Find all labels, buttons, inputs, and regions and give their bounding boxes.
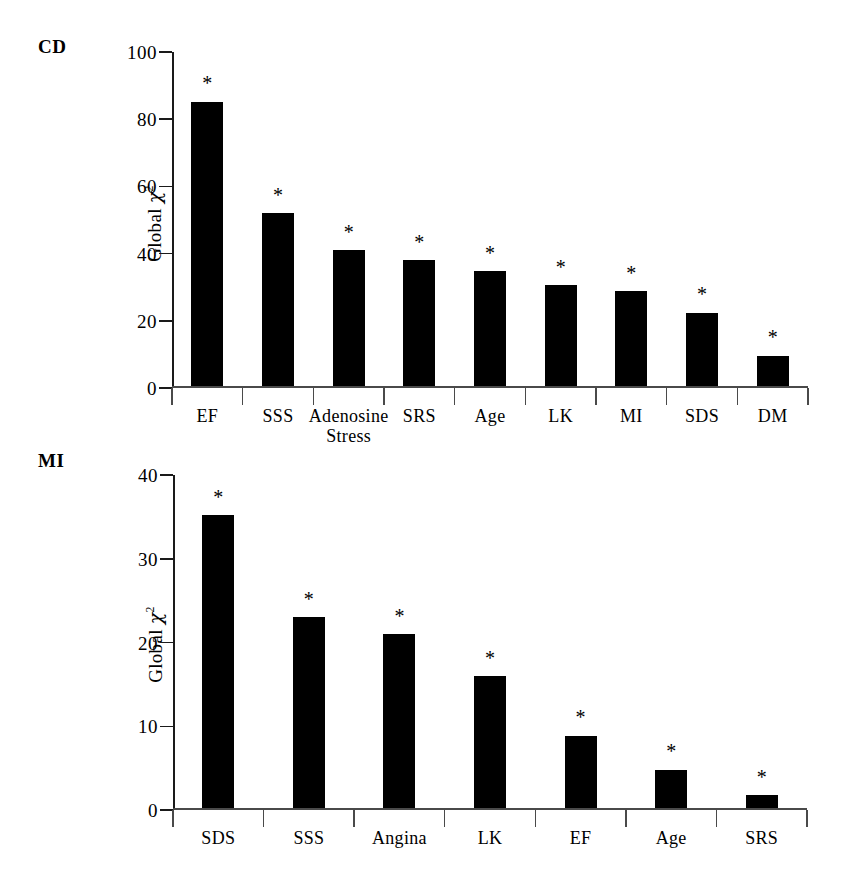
x-axis-category-label: SDS xyxy=(685,406,719,426)
x-axis-tick xyxy=(242,388,244,405)
panel-label-cd: CD xyxy=(38,36,66,58)
bar xyxy=(545,285,577,386)
bar xyxy=(655,770,687,809)
x-axis-tick xyxy=(383,388,385,405)
y-axis-line-cd xyxy=(172,52,174,388)
y-axis-tick xyxy=(160,642,173,644)
x-axis-category-label: EF xyxy=(197,406,219,426)
panel-label-mi: MI xyxy=(38,450,64,472)
y-axis-tick-label: 30 xyxy=(138,549,158,568)
significance-marker: * xyxy=(485,648,495,668)
x-axis-tick xyxy=(625,810,627,827)
x-axis-tick xyxy=(737,388,739,405)
x-axis-category-label: EF xyxy=(570,828,592,848)
bar xyxy=(746,795,778,808)
bar xyxy=(293,617,325,808)
x-axis-category-label: SDS xyxy=(201,828,235,848)
y-axis-tick xyxy=(159,51,172,53)
chi-symbol: χ xyxy=(144,612,166,624)
y-axis-tick-label: 0 xyxy=(147,379,157,398)
y-axis-line-mi xyxy=(173,475,175,810)
significance-marker: * xyxy=(485,243,495,263)
y-axis-tick xyxy=(160,726,173,728)
x-axis-tick xyxy=(353,810,355,827)
bar xyxy=(403,260,435,386)
x-axis-tick xyxy=(595,388,597,405)
x-axis-tick xyxy=(666,388,668,405)
bar xyxy=(262,213,294,386)
x-axis-category-label: DM xyxy=(758,406,788,426)
x-axis-category-label: Age xyxy=(656,828,687,848)
x-axis-category-label: SRS xyxy=(745,828,778,848)
significance-marker: * xyxy=(768,327,778,347)
y-axis-tick-label: 60 xyxy=(137,177,157,196)
bar xyxy=(191,102,223,387)
bar xyxy=(615,291,647,386)
x-axis-category-label: SSS xyxy=(293,828,324,848)
significance-marker: * xyxy=(626,263,636,283)
x-axis-tick xyxy=(525,388,527,405)
x-axis-category-label: SSS xyxy=(263,406,294,426)
x-axis-tick xyxy=(806,810,808,827)
y-axis-tick-label: 40 xyxy=(137,244,157,263)
y-axis-tick xyxy=(160,474,173,476)
significance-marker: * xyxy=(202,73,212,93)
bar xyxy=(686,313,718,387)
x-axis-tick xyxy=(313,388,315,405)
x-axis-tick xyxy=(454,388,456,405)
y-axis-tick xyxy=(159,253,172,255)
y-axis-tick xyxy=(159,320,172,322)
significance-marker: * xyxy=(304,589,314,609)
y-axis-tick-label: 0 xyxy=(148,801,158,820)
y-axis-tick-label: 80 xyxy=(137,110,157,129)
x-axis-tick xyxy=(172,810,174,827)
panel-mi: MI Global χ2 010203040 SDSSSSAnginaLKEFA… xyxy=(0,440,851,882)
y-axis-tick-label: 100 xyxy=(127,43,157,62)
x-axis-tick xyxy=(444,810,446,827)
plot-area-cd: Global χ2 020406080100 EFSSSAdenosine St… xyxy=(172,52,808,388)
x-axis-tick xyxy=(263,810,265,827)
x-axis-category-label: Age xyxy=(475,406,506,426)
y-axis-tick-label: 20 xyxy=(137,311,157,330)
x-axis-category-label: Angina xyxy=(372,828,427,848)
x-axis-category-label: MI xyxy=(620,406,643,426)
x-axis-category-label: LK xyxy=(548,406,573,426)
bar xyxy=(202,515,234,808)
y-axis-tick-label: 10 xyxy=(138,717,158,736)
bar xyxy=(333,250,365,386)
plot-area-mi: Global χ2 010203040 SDSSSSAnginaLKEFAgeS… xyxy=(173,475,807,810)
significance-marker: * xyxy=(576,707,586,727)
y-axis-tick xyxy=(160,558,173,560)
x-axis-tick xyxy=(807,388,809,405)
x-axis-tick xyxy=(535,810,537,827)
bar xyxy=(565,736,597,809)
y-axis-title-cd: Global χ2 xyxy=(143,154,166,294)
bar xyxy=(383,634,415,808)
significance-marker: * xyxy=(666,741,676,761)
y-axis-tick-label: 40 xyxy=(138,466,158,485)
significance-marker: * xyxy=(414,232,424,252)
x-axis-category-label: LK xyxy=(478,828,503,848)
x-axis-tick xyxy=(171,388,173,405)
significance-marker: * xyxy=(394,606,404,626)
y-axis-tick xyxy=(159,387,172,389)
x-axis-tick xyxy=(716,810,718,827)
significance-marker: * xyxy=(273,185,283,205)
significance-marker: * xyxy=(697,284,707,304)
y-axis-tick xyxy=(159,186,172,188)
significance-marker: * xyxy=(556,257,566,277)
y-axis-tick xyxy=(160,809,173,811)
significance-marker: * xyxy=(213,487,223,507)
panel-cd: CD Global χ2 020406080100 EFSSSAdenosine… xyxy=(0,0,851,445)
significance-marker: * xyxy=(757,767,767,787)
y-axis-tick-label: 20 xyxy=(138,633,158,652)
significance-marker: * xyxy=(344,222,354,242)
y-axis-tick xyxy=(159,118,172,120)
bar xyxy=(474,676,506,808)
x-axis-line-mi xyxy=(173,808,807,810)
bar xyxy=(474,271,506,386)
x-axis-line-cd xyxy=(172,386,808,388)
x-axis-category-label: SRS xyxy=(403,406,436,426)
chi-exponent: 2 xyxy=(144,606,157,612)
bar xyxy=(757,356,789,387)
